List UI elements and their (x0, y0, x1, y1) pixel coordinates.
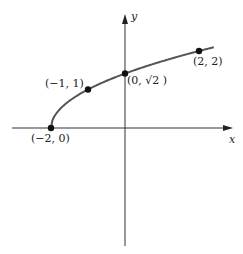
x-axis-arrow-icon (223, 125, 233, 131)
y-axis (122, 14, 128, 246)
data-point-0 (48, 125, 54, 131)
x-axis-label: x (229, 134, 235, 145)
point-label-neg2-0: (−2, 0) (31, 133, 70, 144)
point-label-0-sqrt2: (0, √2 ) (127, 75, 167, 86)
data-point-3 (196, 48, 202, 54)
point-label-2-2: (2, 2) (193, 56, 223, 67)
x-axis (12, 125, 233, 131)
data-point-1 (85, 86, 91, 92)
y-axis-arrow-icon (122, 14, 128, 24)
point-label-neg1-1: (−1, 1) (45, 78, 84, 89)
graph-canvas (0, 0, 243, 254)
y-axis-label: y (131, 11, 137, 22)
